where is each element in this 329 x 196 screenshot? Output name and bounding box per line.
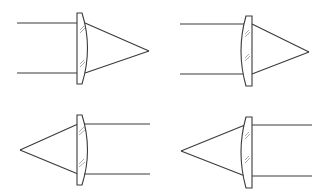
plano-convex-lens — [241, 16, 252, 86]
refracted-ray-bottom — [85, 51, 149, 73]
refracted-ray-top — [85, 23, 149, 51]
plano-convex-lens — [241, 117, 252, 188]
panel-bottom-left — [20, 115, 150, 185]
diverging-ray-top — [181, 125, 245, 151]
panel-top-right — [180, 16, 309, 86]
diverging-ray-bottom — [181, 151, 245, 176]
panel-bottom-right — [181, 117, 312, 188]
panel-top-left — [17, 13, 149, 84]
diverging-ray-top — [20, 124, 78, 150]
refracted-ray-bottom — [252, 52, 309, 74]
diverging-ray-bottom — [20, 150, 78, 174]
lens-diagram — [0, 0, 329, 196]
refracted-ray-top — [252, 24, 309, 52]
